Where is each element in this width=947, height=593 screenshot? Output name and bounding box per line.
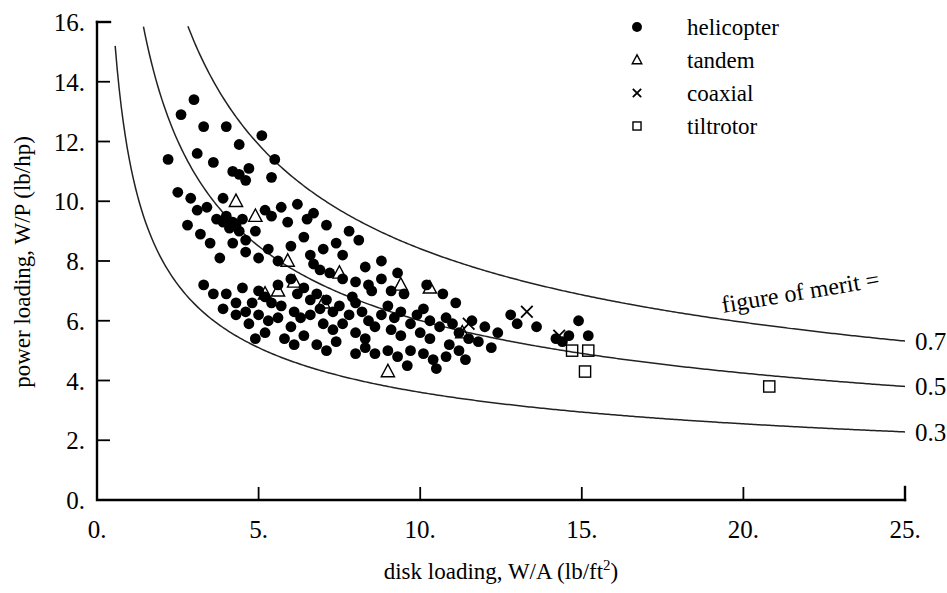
marker-helicopter [347, 291, 358, 302]
marker-helicopter [292, 199, 303, 210]
y-tick-label: 6. [66, 308, 85, 335]
marker-tiltrotor [764, 381, 775, 392]
marker-helicopter [386, 324, 397, 335]
marker-helicopter [376, 274, 387, 285]
marker-helicopter [382, 345, 393, 356]
marker-helicopter [486, 342, 497, 353]
marker-helicopter [353, 235, 364, 246]
marker-helicopter [176, 109, 187, 120]
marker-helicopter [298, 232, 309, 243]
marker-helicopter [192, 148, 203, 159]
x-axis-title-superscript: 2 [603, 557, 611, 573]
x-axis-title: disk loading, W/A (lb/ft2) [384, 557, 619, 584]
y-tick-label: 12. [54, 129, 85, 156]
marker-helicopter [392, 268, 403, 279]
marker-helicopter [415, 327, 426, 338]
y-tick-label: 14. [54, 69, 85, 96]
fom-curve-0-5 [143, 27, 905, 387]
marker-helicopter [305, 309, 316, 320]
marker-helicopter [573, 315, 584, 326]
marker-helicopter [360, 342, 371, 353]
y-axis-title: power loading, W/P (lb/hp) [10, 136, 35, 388]
marker-helicopter [350, 327, 361, 338]
marker-coaxial [633, 89, 641, 97]
marker-helicopter [240, 306, 251, 317]
marker-helicopter [512, 318, 523, 329]
x-tick-label: 0. [88, 516, 107, 543]
marker-helicopter [395, 330, 406, 341]
marker-helicopter [256, 130, 267, 141]
curve-label-0-3: 0.3 [915, 419, 946, 446]
legend-label-helicopter: helicopter [687, 15, 779, 40]
marker-helicopter [370, 321, 381, 332]
x-axis-tick-labels: 0.5.10.15.20.25. [88, 516, 921, 543]
marker-helicopter [298, 330, 309, 341]
x-axis-title-main: disk loading, W/A (lb/ft [384, 559, 604, 584]
marker-helicopter [260, 327, 271, 338]
marker-helicopter [311, 339, 322, 350]
marker-helicopter [163, 154, 174, 165]
marker-helicopter [227, 238, 238, 249]
marker-helicopter [250, 333, 261, 344]
marker-helicopter [418, 348, 429, 359]
marker-helicopter [289, 339, 300, 350]
x-tick-label: 10. [405, 516, 436, 543]
legend: helicoptertandemcoaxialtiltrotor [632, 15, 779, 139]
curve-value-labels: 0.70.50.3 [915, 328, 946, 446]
marker-helicopter [263, 244, 274, 255]
marker-helicopter [632, 22, 642, 32]
marker-helicopter [234, 226, 245, 237]
legend-item-coaxial: coaxial [633, 81, 754, 106]
marker-helicopter [321, 345, 332, 356]
marker-helicopter [237, 214, 248, 225]
marker-helicopter [218, 303, 229, 314]
series-helicopter [163, 94, 594, 374]
marker-helicopter [250, 226, 261, 237]
marker-helicopter [357, 306, 368, 317]
series-tiltrotor [567, 345, 775, 392]
marker-helicopter [505, 309, 516, 320]
marker-tandem [394, 278, 407, 290]
marker-helicopter [418, 303, 429, 314]
marker-helicopter [334, 300, 345, 311]
marker-helicopter [450, 297, 461, 308]
x-tick-label: 20. [728, 516, 759, 543]
marker-helicopter [370, 348, 381, 359]
marker-helicopter [583, 330, 594, 341]
marker-helicopter [386, 285, 397, 296]
marker-helicopter [298, 282, 309, 293]
legend-label-tandem: tandem [687, 48, 755, 73]
x-axis-title-tail: ) [611, 559, 619, 584]
figure-of-merit-annotation: figure of merit = [720, 266, 882, 318]
y-axis-tick-labels: 0.2.4.6.8.10.12.14.16. [54, 9, 85, 514]
marker-helicopter [234, 139, 245, 150]
marker-helicopter [221, 288, 232, 299]
marker-helicopter [441, 351, 452, 362]
marker-helicopter [311, 288, 322, 299]
marker-helicopter [531, 321, 542, 332]
series-tandem [229, 194, 468, 377]
marker-helicopter [344, 226, 355, 237]
y-tick-label: 2. [66, 427, 85, 454]
marker-helicopter [198, 280, 209, 291]
legend-item-tiltrotor: tiltrotor [633, 114, 758, 139]
marker-helicopter [392, 351, 403, 362]
legend-item-helicopter: helicopter [632, 15, 779, 40]
x-axis-ticks [97, 487, 905, 500]
y-axis-ticks [97, 22, 110, 500]
marker-helicopter [315, 303, 326, 314]
x-tick-label: 15. [566, 516, 597, 543]
marker-helicopter [318, 244, 329, 255]
power-loading-vs-disk-loading-chart: 0.2.4.6.8.10.12.14.16. 0.5.10.15.20.25. … [0, 0, 947, 593]
marker-helicopter [331, 238, 342, 249]
marker-helicopter [454, 345, 465, 356]
marker-helicopter [437, 288, 448, 299]
marker-helicopter [337, 250, 348, 261]
curve-label-0-5: 0.5 [915, 373, 946, 400]
marker-helicopter [321, 220, 332, 231]
marker-helicopter [350, 348, 361, 359]
legend-label-tiltrotor: tiltrotor [687, 114, 758, 139]
marker-helicopter [263, 315, 274, 326]
marker-helicopter [286, 241, 297, 252]
marker-tandem [229, 194, 242, 206]
